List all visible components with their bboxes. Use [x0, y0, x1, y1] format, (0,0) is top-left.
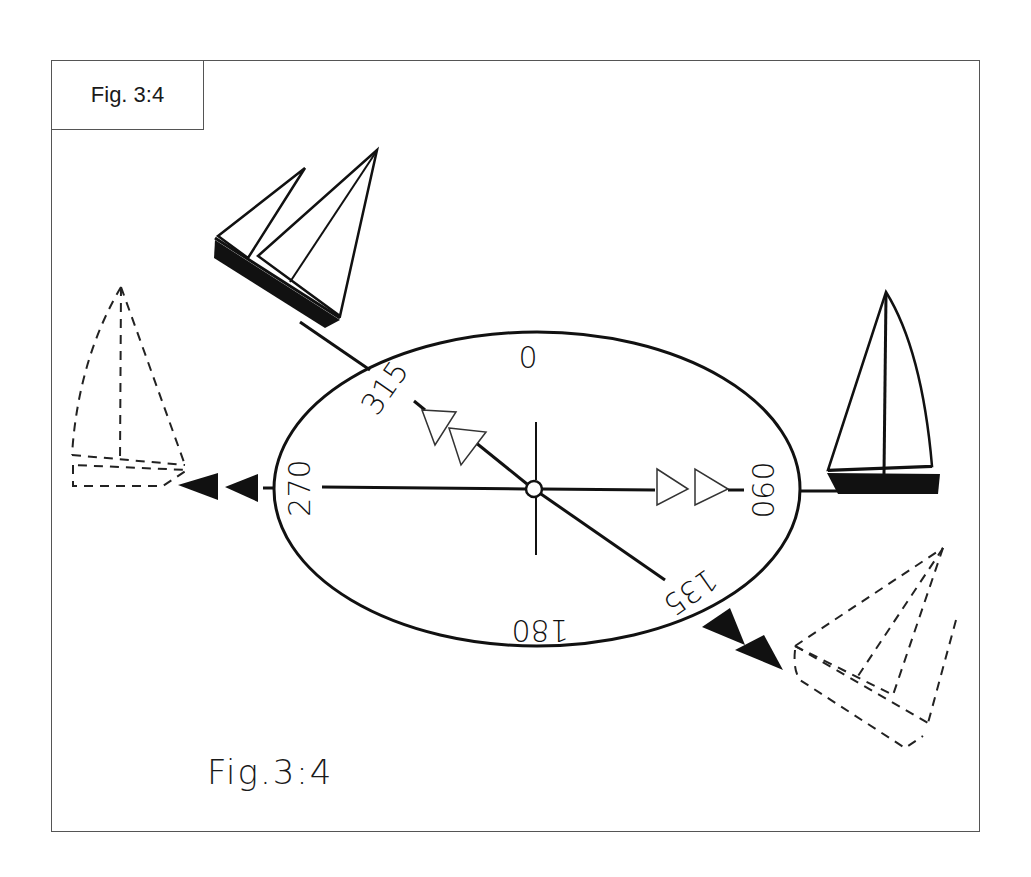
boat-west-icon	[72, 287, 187, 486]
figure-bottom-caption: Fig.3:4	[207, 752, 333, 792]
arrows-to-270	[178, 473, 258, 502]
arrows-to-315	[422, 410, 486, 465]
arrows-to-090	[657, 469, 728, 505]
boat-southeast-icon	[795, 548, 956, 748]
label-north: 0	[518, 340, 537, 375]
boat-east-icon	[827, 292, 940, 494]
boat-northwest-icon	[214, 150, 377, 328]
label-west: 270	[282, 459, 317, 516]
label-southeast: 135	[657, 562, 724, 624]
label-east: 090	[745, 461, 780, 518]
arrows-to-135	[702, 608, 783, 670]
compass-diagram: 0 090 180 270 315 135	[0, 0, 1031, 877]
heading-line-315-135	[300, 322, 665, 580]
center-pivot	[526, 481, 542, 497]
figure-corner-label: Fig. 3:4	[51, 60, 204, 130]
label-south: 180	[511, 613, 568, 648]
figure-corner-label-text: Fig. 3:4	[91, 82, 164, 108]
